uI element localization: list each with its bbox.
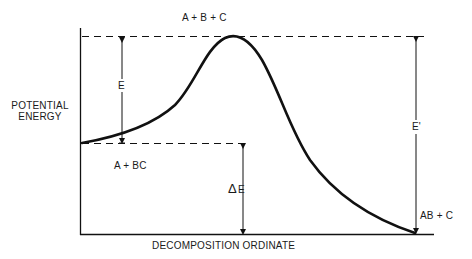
potential-energy-curve (82, 36, 415, 233)
y-axis-label: POTENTIAL ENERGY (4, 100, 76, 122)
reverse-activation-energy-label: E' (412, 121, 421, 132)
activation-energy-label: E (118, 80, 125, 91)
energy-diagram-canvas (0, 0, 472, 259)
y-axis-label-line1: POTENTIAL (4, 100, 76, 111)
transition-state-label: A + B + C (182, 12, 227, 23)
reactants-label: A + BC (114, 160, 147, 171)
y-axis-label-line2: ENERGY (4, 111, 76, 122)
delta-symbol: Δ (228, 181, 237, 196)
delta-energy-label: ΔE (228, 183, 245, 195)
products-label: AB + C (420, 210, 453, 221)
x-axis-label: DECOMPOSITION ORDINATE (152, 240, 295, 251)
delta-energy-letter: E (238, 184, 245, 195)
